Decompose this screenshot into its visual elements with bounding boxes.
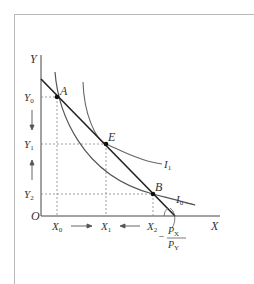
x-axis-label: X: [210, 219, 219, 233]
svg-text:PX: PX: [167, 225, 179, 238]
label-e: E: [107, 130, 116, 144]
svg-text:PY: PY: [167, 239, 179, 252]
label-b: B: [155, 180, 163, 194]
i0-label: I0: [175, 193, 184, 207]
i1-label: I1: [163, 158, 172, 172]
x1-label: X1: [100, 220, 112, 234]
y-up-arrow: [30, 160, 34, 180]
y-down-arrow: [30, 110, 34, 130]
y2-label: Y2: [24, 188, 34, 202]
y1-label: Y1: [24, 138, 34, 152]
point-a: [55, 95, 60, 100]
svg-text:−: −: [158, 231, 165, 242]
x0-label: X0: [51, 220, 63, 234]
y-axis-label: Y: [30, 52, 38, 66]
indifference-curve-i1: [83, 82, 162, 164]
slope-label: − PX PY: [158, 225, 186, 252]
x-left-arrow: [120, 224, 140, 228]
guide-lines: [41, 97, 153, 216]
x-right-arrow: [71, 224, 92, 228]
y0-label: Y0: [24, 91, 34, 105]
budget-line: [41, 79, 175, 216]
x2-label: X2: [146, 220, 158, 234]
indifference-curve-i0: [55, 72, 195, 205]
origin-label: O: [31, 209, 40, 223]
label-a: A: [59, 84, 68, 98]
